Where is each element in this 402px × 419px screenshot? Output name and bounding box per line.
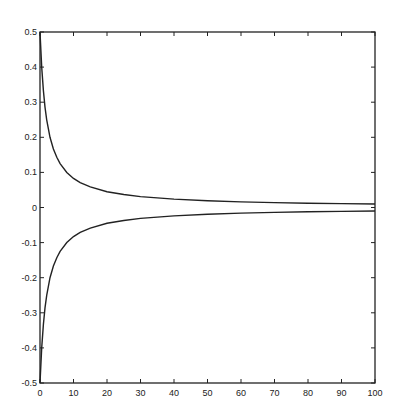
x-tick-label: 10 [68,388,78,398]
x-tick-label: 100 [367,388,382,398]
x-tick-label: 30 [135,388,145,398]
y-tick-label: 0.4 [24,62,37,72]
x-tick-label: 50 [202,388,212,398]
series-layer [40,32,375,383]
y-tick-label: 0.2 [24,132,37,142]
y-tick-label: 0.1 [24,167,37,177]
y-tick-label: -0.1 [21,238,37,248]
y-tick-label: -0.3 [21,308,37,318]
y-axis: 0.50.40.30.20.10-0.1-0.2-0.3-0.4-0.5 [21,27,375,388]
x-tick-label: 80 [303,388,313,398]
y-tick-label: -0.4 [21,343,37,353]
y-tick-label: 0 [32,203,37,213]
y-tick-label: -0.5 [21,378,37,388]
series-upper-line [40,32,375,204]
x-tick-label: 60 [236,388,246,398]
y-tick-label: 0.5 [24,27,37,37]
x-tick-label: 90 [336,388,346,398]
series-lower-line [40,211,375,383]
y-tick-label: -0.2 [21,273,37,283]
x-tick-label: 0 [37,388,42,398]
plot-frame [40,32,375,383]
x-tick-label: 70 [269,388,279,398]
y-tick-label: 0.3 [24,97,37,107]
x-tick-label: 40 [169,388,179,398]
x-tick-label: 20 [102,388,112,398]
line-chart: 0.50.40.30.20.10-0.1-0.2-0.3-0.4-0.5 010… [0,0,402,419]
x-axis: 0102030405060708090100 [37,32,382,398]
